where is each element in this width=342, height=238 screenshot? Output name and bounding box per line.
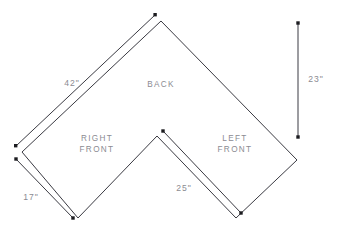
area-label-back: BACK: [147, 80, 175, 89]
dimension-25-label: 25": [176, 183, 191, 193]
dimension-23-cap-bottom: [296, 135, 299, 138]
area-label-right-front: RIGHT FRONT: [80, 134, 115, 154]
area-label-left-front: LEFT FRONT: [218, 134, 253, 154]
dimension-23-label: 23": [308, 74, 323, 84]
dimension-42-label: 42": [64, 78, 79, 88]
area-label-right-front-line2: FRONT: [80, 145, 115, 154]
dimension-17-line: [16, 159, 73, 218]
diagram-root: 42" 17" 25" 23" BACK RIGHT FRONT: [0, 0, 342, 238]
dimension-42-line: [16, 15, 155, 146]
dimension-25-cap-end: [239, 211, 242, 214]
countertop-outline-shape: [22, 21, 297, 218]
dimension-42-group: 42": [14, 13, 157, 147]
dimension-42-cap-start: [14, 144, 17, 147]
dimension-23-group: 23": [296, 21, 323, 138]
countertop-diagram-canvas: 42" 17" 25" 23" BACK RIGHT FRONT: [0, 0, 342, 238]
dimension-17-cap-start: [14, 157, 17, 160]
dimension-17-cap-end: [71, 216, 74, 219]
dimension-25-cap-start: [161, 129, 164, 132]
dimension-42-cap-end: [153, 13, 156, 16]
dimension-25-line: [163, 131, 241, 213]
dimension-17-group: 17": [14, 157, 74, 219]
area-label-left-front-line1: LEFT: [222, 134, 247, 143]
area-label-right-front-line1: RIGHT: [81, 134, 113, 143]
dimension-17-label: 17": [23, 192, 38, 202]
area-label-left-front-line2: FRONT: [218, 145, 253, 154]
dimension-23-cap-top: [296, 21, 299, 24]
